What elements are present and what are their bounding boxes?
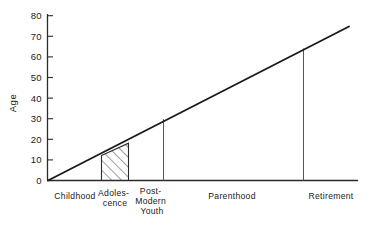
age-life-stage-chart: 0 10 20 30 40 50 60 70 80 Age Childhood … [0, 0, 368, 227]
y-tick-label-10: 10 [31, 154, 42, 165]
y-tick-label-0: 0 [36, 175, 42, 186]
x-axis-category-labels: Childhood Adoles- cence Post- Modern You… [54, 186, 354, 216]
pmy-line-2: Modern [135, 196, 166, 206]
adolescence-line-1: Adoles- [98, 188, 129, 198]
y-tick-label-30: 30 [31, 113, 42, 124]
category-label-adolescence: Adoles- cence [98, 188, 132, 208]
y-tick-label-20: 20 [31, 134, 42, 145]
y-tick-label-70: 70 [31, 31, 42, 42]
category-label-post-modern-youth: Post- Modern Youth [135, 186, 169, 216]
stage-dividers [164, 49, 304, 181]
chart-container: 0 10 20 30 40 50 60 70 80 Age Childhood … [0, 0, 368, 227]
y-axis-tick-labels: 0 10 20 30 40 50 60 70 80 [31, 10, 42, 186]
category-label-parenthood: Parenthood [208, 191, 255, 201]
adolescence-line-2: cence [103, 198, 127, 208]
y-tick-label-80: 80 [31, 10, 42, 21]
y-axis-title: Age [7, 94, 18, 113]
y-tick-label-60: 60 [31, 51, 42, 62]
category-label-retirement: Retirement [308, 191, 353, 201]
category-label-childhood: Childhood [54, 191, 95, 201]
pmy-line-1: Post- [140, 186, 162, 196]
y-axis-ticks [48, 16, 54, 181]
y-tick-label-50: 50 [31, 72, 42, 83]
y-tick-label-40: 40 [31, 93, 42, 104]
pmy-line-3: Youth [140, 206, 163, 216]
